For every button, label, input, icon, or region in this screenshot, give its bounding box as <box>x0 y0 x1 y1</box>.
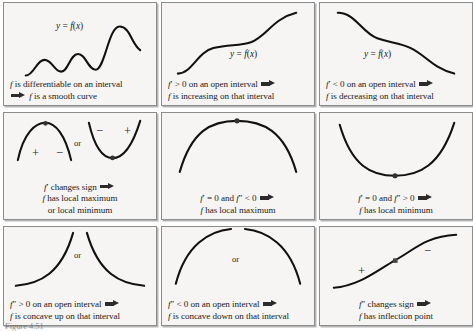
cell-differentiable-smooth-curve: y = f(x) f is differentiable on an inter… <box>3 2 157 106</box>
implies-arrow-icon <box>418 194 433 202</box>
caption-line-1: f′ > 0 on an open interval <box>168 79 310 90</box>
sign-plus-right: + <box>124 125 131 138</box>
implies-arrow-icon <box>261 80 276 88</box>
graph-label-y-equals-fx: y = f(x) <box>230 49 257 59</box>
implies-arrow-icon <box>105 300 120 308</box>
sign-plus-left: + <box>32 147 39 160</box>
caption-line-1: f″ < 0 on an open interval <box>168 299 310 310</box>
cell-first-derivative-negative-decreasing: y = f(x) f′ < 0 on an open interval f is… <box>319 2 473 106</box>
sign-minus-left: − <box>56 147 63 160</box>
caption-first-derivative-positive-increasing: f′ > 0 on an open interval f is increasi… <box>168 79 310 102</box>
caption-line-1: f is differentiable on an interval <box>10 79 152 90</box>
cell-local-maximum-second-derivative-negative: f′ = 0 and f″ < 0 f has local maximum <box>161 112 315 220</box>
cell-local-minimum-second-derivative-positive: f′ = 0 and f″ > 0 f has local minimum <box>319 112 473 220</box>
caption-concave-down: f″ < 0 on an open interval f is concave … <box>168 299 310 322</box>
or-label: or <box>74 138 81 148</box>
caption-first-derivative-negative-decreasing: f′ < 0 on an open interval f is decreasi… <box>326 79 468 102</box>
cell-first-derivative-positive-increasing: y = f(x) f′ > 0 on an open interval f is… <box>161 2 315 106</box>
caption-local-maximum: f′ = 0 and f″ < 0 f has local maximum <box>165 193 311 216</box>
implies-arrow-icon <box>417 300 432 308</box>
caption-line-2: f is decreasing on that interval <box>326 91 468 102</box>
implies-arrow-icon <box>11 92 26 100</box>
figure-caption: Figure 4.51 <box>5 322 44 331</box>
caption-local-minimum: f′ = 0 and f″ > 0 f has local minimum <box>323 193 469 216</box>
caption-line-1: f″ changes sign <box>323 299 469 310</box>
cell-concave-down: or f″ < 0 on an open interval f is conca… <box>161 226 315 326</box>
implies-arrow-icon <box>100 183 115 191</box>
derivative-summary-grid: y = f(x) f is differentiable on an inter… <box>0 0 470 320</box>
caption-inflection-point: f″ changes sign f has inflection point <box>323 299 469 322</box>
caption-concave-up: f″ > 0 on an open interval f is concave … <box>10 299 152 322</box>
cell-concave-up: or f″ > 0 on an open interval f is conca… <box>3 226 157 326</box>
sign-minus: − <box>424 245 431 258</box>
or-label: or <box>232 254 239 264</box>
caption-line-1: f″ > 0 on an open interval <box>10 299 152 310</box>
or-label: or <box>74 250 81 260</box>
caption-line-2: f is concave down on that interval <box>168 311 310 322</box>
caption-line-1: f′ < 0 on an open interval <box>326 79 468 90</box>
caption-first-derivative-changes-sign: f′ changes sign f has local maximum or l… <box>7 182 153 216</box>
implies-arrow-icon <box>419 80 434 88</box>
caption-line-3: or local minimum <box>7 205 153 216</box>
caption-line-2: f has local maximum <box>165 205 311 216</box>
implies-arrow-icon <box>263 300 278 308</box>
graph-label-y-equals-fx: y = f(x) <box>364 49 391 59</box>
sign-minus-right: − <box>96 125 103 138</box>
caption-line-2: f has local maximum <box>7 193 153 204</box>
caption-line-1: f′ = 0 and f″ < 0 <box>165 193 311 204</box>
graph-label-y-equals-fx: y = f(x) <box>56 21 83 31</box>
implies-arrow-icon <box>260 194 275 202</box>
caption-line-1: f′ changes sign <box>7 182 153 193</box>
caption-line-2: f is concave up on that interval <box>10 311 152 322</box>
cell-inflection-point: + − f″ changes sign f has inflection poi… <box>319 226 473 326</box>
caption-line-2: f is a smooth curve <box>10 91 152 102</box>
caption-line-1: f′ = 0 and f″ > 0 <box>323 193 469 204</box>
sign-plus: + <box>358 265 365 278</box>
cell-first-derivative-changes-sign: + − − + or f′ changes sign f has local m… <box>3 112 157 220</box>
caption-line-2: f has inflection point <box>323 311 469 322</box>
caption-line-2: f is increasing on that interval <box>168 91 310 102</box>
caption-line-2: f has local minimum <box>323 205 469 216</box>
caption-differentiable-smooth-curve: f is differentiable on an interval f is … <box>10 79 152 102</box>
